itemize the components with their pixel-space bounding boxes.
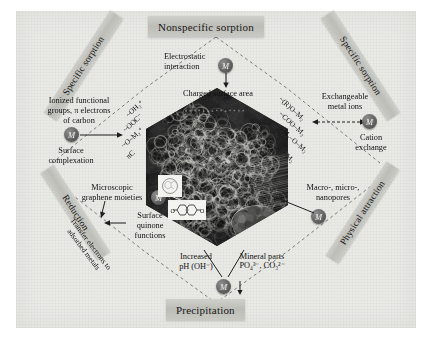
banner-nonspecific-sorption: Nonspecific sorption (148, 16, 264, 37)
arrow-complexation-right (80, 129, 124, 141)
microscopic-graphene-moieties-label: Microscopic graphene moieties (70, 183, 154, 203)
arrow-electrostatic-down (218, 73, 234, 89)
banner-precipitation: Precipitation (166, 299, 245, 320)
svg-text:O: O (171, 208, 176, 214)
arrow-cation-exchange-bidirectional (312, 116, 366, 128)
charged-surface-area-label: Charged surface area (166, 89, 270, 99)
leader-line-pores (272, 196, 318, 216)
metal-ion-complexation: M (64, 127, 79, 142)
exchangeable-metal-ions-label: Exchangeable metal ions (310, 92, 380, 112)
leader-line-quinone-inset (166, 190, 192, 208)
ionized-functional-groups-label: Ionized functional groups, π electrons o… (38, 96, 120, 125)
arrow-precipitation-down (234, 281, 246, 295)
biochar-sorption-mechanism-figure: Nonspecific sorption Precipitation Speci… (0, 0, 432, 339)
metal-ion-cation-exchange: M (362, 114, 377, 129)
metal-ion-precipitation: M (216, 279, 231, 294)
cation-exchange-label: Cation exchange (337, 133, 405, 153)
arrow-quinone-left (104, 217, 126, 229)
electrostatic-interaction-label: Electrostatic interaction (164, 52, 216, 72)
precipitation-converging-lines (200, 250, 250, 282)
surface-complexation-label: Surface complexation (34, 146, 108, 166)
metal-ion-electrostatic: M (218, 58, 233, 73)
svg-text:O: O (200, 208, 205, 214)
